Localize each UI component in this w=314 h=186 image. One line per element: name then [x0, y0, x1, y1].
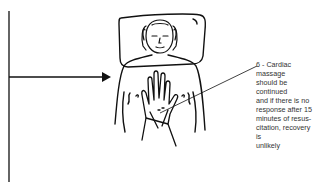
step-caption: 6 - Cardiac massage should be continued …: [256, 60, 314, 150]
leader-line: [160, 66, 257, 113]
pillow: [119, 14, 205, 67]
hands-on-chest-icon: [142, 71, 178, 146]
patient-head: [142, 20, 177, 53]
flow-arrow-icon: [9, 11, 111, 182]
